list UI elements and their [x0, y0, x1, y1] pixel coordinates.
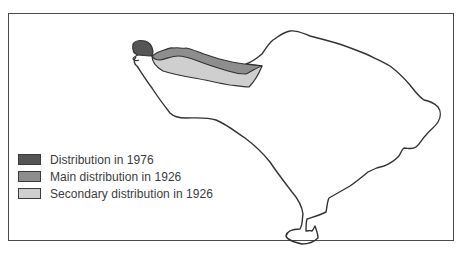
legend-label: Main distribution in 1926 [50, 170, 181, 184]
legend-item-secondary-1926: Secondary distribution in 1926 [18, 185, 213, 202]
legend-swatch-secondary-1926 [18, 188, 41, 199]
map-legend: Distribution in 1976 Main distribution i… [18, 151, 213, 202]
legend-item-1976: Distribution in 1976 [18, 151, 213, 168]
distribution-1976-region [133, 41, 153, 56]
legend-swatch-1976 [18, 154, 41, 165]
legend-swatch-main-1926 [18, 171, 41, 182]
island-map [0, 0, 464, 253]
legend-label: Distribution in 1976 [50, 153, 154, 167]
legend-item-main-1926: Main distribution in 1926 [18, 168, 213, 185]
legend-label: Secondary distribution in 1926 [50, 187, 213, 201]
